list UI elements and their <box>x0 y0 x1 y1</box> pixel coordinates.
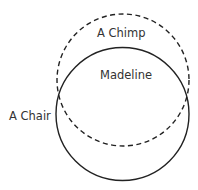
venn-diagram: A Chimp Madeline A Chair <box>0 0 198 190</box>
madeline-label: Madeline <box>100 68 152 82</box>
chair-label: A Chair <box>9 109 51 123</box>
chimp-label: A Chimp <box>97 26 146 40</box>
